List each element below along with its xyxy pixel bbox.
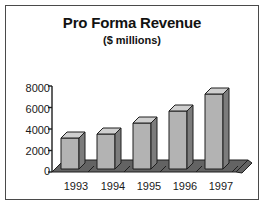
plot-area: 8000 6000 4000 2000 0 1993 1994 1995 199… [0, 0, 264, 206]
bar-1996 [169, 105, 193, 169]
bar-1994 [97, 128, 121, 169]
bar-1997 [205, 88, 229, 169]
chart-figure: Pro Forma Revenue ($ millions) 8000 6000… [0, 0, 264, 206]
bar-1993 [61, 132, 85, 169]
bar-1995 [133, 117, 157, 169]
chart-3d-scene [0, 0, 264, 206]
